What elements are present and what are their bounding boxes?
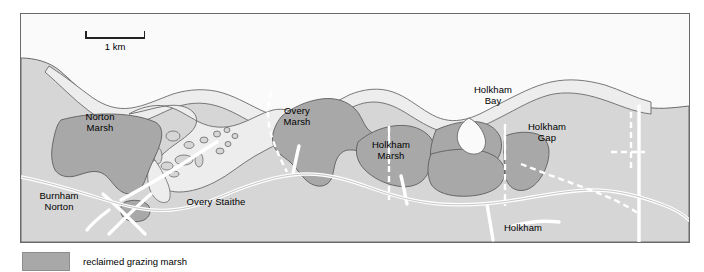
legend-swatch-reclaimed-marsh (22, 252, 70, 271)
label-holkham: Holkham (492, 223, 554, 234)
scale-bar-label: 1 km (75, 41, 155, 52)
label-norton-marsh: Norton Marsh (74, 112, 126, 133)
label-holkham-marsh: Holkham Marsh (360, 140, 422, 161)
label-burnham-norton: Burnham Norton (28, 191, 90, 212)
legend: reclaimed grazing marsh (22, 252, 187, 271)
label-holkham-gap: Holkham Gap (516, 122, 578, 143)
legend-label-reclaimed-marsh: reclaimed grazing marsh (83, 256, 187, 267)
label-overy-marsh: Overy Marsh (271, 106, 323, 127)
figure-root: 1 km Norton Marsh Overy Marsh Holkham Ma… (0, 0, 704, 272)
holkham-marsh-central-polygon (428, 149, 505, 196)
label-overy-staithe: Overy Staithe (176, 197, 256, 208)
scale-bar (85, 31, 145, 40)
label-holkham-bay: Holkham Bay (462, 85, 524, 106)
scale-rule (85, 37, 145, 39)
scale-tick-right (144, 31, 146, 38)
